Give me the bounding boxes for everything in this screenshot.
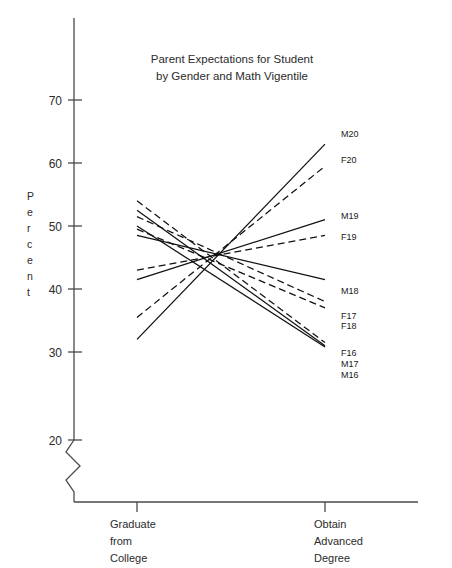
y-tick-label-30: 30 <box>49 346 63 360</box>
series-line-f19 <box>137 235 325 270</box>
y-axis-title-char-0: P <box>27 190 34 202</box>
cat-1-line-1: Advanced <box>314 535 363 547</box>
cat-0-line-2: College <box>110 552 147 564</box>
y-tick-label-50: 50 <box>49 220 63 234</box>
series-label-m16: M16 <box>341 370 359 380</box>
series-line-f17 <box>137 217 325 302</box>
y-axis-title: P e r c e n t <box>27 190 34 298</box>
y-tick-label-40: 40 <box>49 283 63 297</box>
series-label-f16: F16 <box>341 348 357 358</box>
x-category-label-graduate: Graduate from College <box>110 518 156 564</box>
series-label-f18: F18 <box>341 321 357 331</box>
series-label-f17: F17 <box>341 311 357 321</box>
y-axis-title-char-4: e <box>27 254 33 266</box>
y-tick-label-70: 70 <box>49 94 63 108</box>
cat-1-line-2: Degree <box>314 552 350 564</box>
x-tick-marks <box>137 502 325 512</box>
x-category-label-advanced: Obtain Advanced Degree <box>314 518 363 564</box>
y-tick-label-20: 20 <box>49 434 63 448</box>
line-chart: Parent Expectations for Student by Gende… <box>0 0 452 568</box>
series-label-f19: F19 <box>341 232 357 242</box>
y-axis-title-char-5: n <box>27 270 33 282</box>
series-line-f16 <box>137 201 325 343</box>
y-tick-marks <box>68 100 82 440</box>
cat-0-line-1: from <box>110 535 132 547</box>
series-label-m17: M17 <box>341 359 359 369</box>
chart-title-line-2: by Gender and Math Vigentile <box>156 70 308 82</box>
series-line-m19 <box>137 220 325 280</box>
series-label-f20: F20 <box>341 155 357 165</box>
y-axis-title-char-2: r <box>27 222 31 234</box>
series-layer <box>137 144 325 347</box>
chart-page: Parent Expectations for Student by Gende… <box>0 0 452 568</box>
y-axis-title-char-1: e <box>27 206 33 218</box>
series-label-m20: M20 <box>341 129 359 139</box>
series-label-m19: M19 <box>341 211 359 221</box>
series-line-m17 <box>137 210 325 345</box>
y-tick-label-60: 60 <box>49 157 63 171</box>
y-axis-break-zigzag <box>66 440 80 502</box>
y-axis-title-char-6: t <box>27 286 30 298</box>
series-line-m16 <box>137 226 325 347</box>
cat-1-line-0: Obtain <box>314 518 346 530</box>
series-label-m18: M18 <box>341 286 359 296</box>
series-label-layer: M20F20M19F19M18F17F18F16M17M16 <box>341 129 359 380</box>
chart-title-line-1: Parent Expectations for Student <box>151 53 314 65</box>
y-axis-title-char-3: c <box>27 238 32 250</box>
cat-0-line-0: Graduate <box>110 518 156 530</box>
